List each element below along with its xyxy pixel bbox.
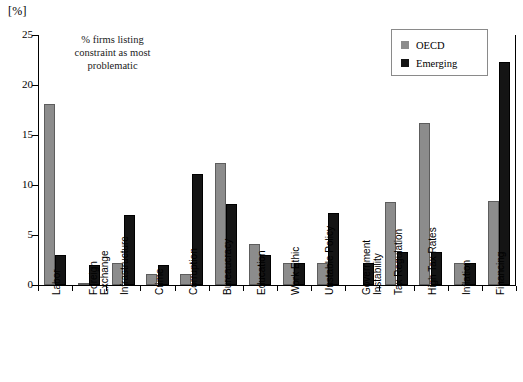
x-tick [38, 286, 39, 291]
x-tick [277, 286, 278, 291]
y-tick-label: 15 [11, 128, 33, 140]
x-category-label: Tax Regulation [393, 229, 404, 295]
x-category-label-line: Education [256, 251, 267, 295]
x-tick [140, 286, 141, 291]
bar-chart: [%] % firms listing constraint as most p… [0, 0, 523, 382]
x-category-label-line: Foreign [88, 251, 99, 295]
y-axis-unit-label: [%] [8, 4, 27, 19]
x-category-label: Labor [51, 269, 62, 295]
x-category-label: ForeignExchange [88, 251, 110, 295]
x-category-label: Infrastructure [119, 236, 130, 295]
x-tick [72, 286, 73, 291]
x-tick [482, 286, 483, 291]
x-category-label-line: Instability [372, 240, 383, 295]
x-category-label: Bureaucracy [222, 239, 233, 295]
x-category-label: Education [256, 251, 267, 295]
x-category-label: Unstable Policy [324, 226, 335, 295]
bar-oecd-0 [44, 104, 55, 285]
x-tick [243, 286, 244, 291]
x-category-label-line: High Tax Rates [427, 227, 438, 295]
x-category-label-line: Labor [51, 269, 62, 295]
x-category-label-line: Exchange [99, 251, 110, 295]
bars-layer [38, 35, 516, 285]
x-category-label: Financing [495, 252, 506, 295]
x-category-label-line: Financing [495, 252, 506, 295]
x-tick [209, 286, 210, 291]
x-tick [345, 286, 346, 291]
x-tick [516, 286, 517, 291]
x-category-label: Corruption [188, 248, 199, 295]
y-tick-label: 20 [11, 78, 33, 90]
x-category-label: Crime [154, 268, 165, 295]
x-category-label-line: Infrastructure [119, 236, 130, 295]
x-category-label: Inflation [461, 260, 472, 295]
y-tick-label: 25 [11, 28, 33, 40]
x-category-label-line: Government [361, 240, 372, 295]
x-tick [175, 286, 176, 291]
x-category-label-line: Unstable Policy [324, 226, 335, 295]
x-category-label-line: Work Ethic [290, 247, 301, 295]
x-category-label: High Tax Rates [427, 227, 438, 295]
x-tick [311, 286, 312, 291]
x-category-label-line: Bureaucracy [222, 239, 233, 295]
y-tick-label: 10 [11, 178, 33, 190]
y-tick-label: 5 [11, 228, 33, 240]
x-category-label: Work Ethic [290, 247, 301, 295]
x-tick [448, 286, 449, 291]
x-category-label-line: Corruption [188, 248, 199, 295]
x-tick [414, 286, 415, 291]
x-category-label-line: Crime [154, 268, 165, 295]
x-category-label-line: Tax Regulation [393, 229, 404, 295]
x-category-label: GovernmentInstability [361, 240, 383, 295]
y-tick-label: 0 [11, 278, 33, 290]
x-category-label-line: Inflation [461, 260, 472, 295]
